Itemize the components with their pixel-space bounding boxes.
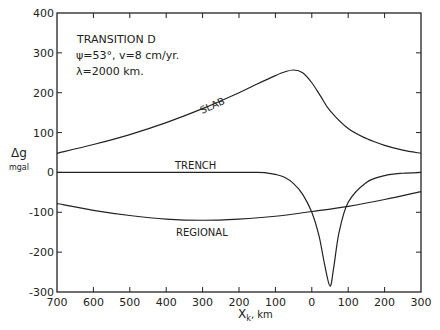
- curve-slab: [57, 70, 421, 153]
- x-tick-label: 300: [192, 296, 213, 309]
- y-tick-label: -100: [29, 206, 54, 219]
- curve-label-trench: TRENCH: [174, 160, 216, 171]
- curve-label-slab: SLAB: [198, 95, 226, 116]
- x-axis-unit: , km: [251, 309, 273, 320]
- x-axis-label: Xk, km: [238, 307, 273, 323]
- y-tick-label: 100: [33, 127, 54, 140]
- y-axis-label: Δg: [11, 146, 27, 160]
- curve-trench: [57, 172, 421, 286]
- y-tick-label: -200: [29, 246, 54, 259]
- y-tick-label: -300: [29, 286, 54, 299]
- x-tick-label: 100: [338, 296, 359, 309]
- x-tick-label: 0: [308, 296, 315, 309]
- params-line-1: ψ=53°, v=8 cm/yr.: [76, 49, 179, 62]
- y-tick-label: 0: [47, 166, 54, 179]
- x-tick-label: 400: [156, 296, 177, 309]
- x-tick-label: 600: [83, 296, 104, 309]
- y-axis-unit: mgal: [9, 163, 29, 172]
- data-curves: [57, 70, 421, 286]
- x-tick-label: 500: [119, 296, 140, 309]
- x-tick-label: 200: [374, 296, 395, 309]
- params-line-2: λ=2000 km.: [76, 65, 144, 78]
- gravity-anomaly-chart: 7006005004003002001000100200300400300200…: [0, 0, 440, 330]
- chart-title: TRANSITION D: [76, 33, 156, 46]
- y-tick-label: 200: [33, 87, 54, 100]
- curve-regional: [57, 192, 421, 221]
- curve-label-regional: REGIONAL: [176, 227, 228, 238]
- y-tick-label: 300: [33, 47, 54, 60]
- x-tick-label: 100: [265, 296, 286, 309]
- y-tick-label: 400: [33, 7, 54, 20]
- x-axis-symbol: X: [238, 307, 246, 321]
- x-tick-label: 300: [411, 296, 432, 309]
